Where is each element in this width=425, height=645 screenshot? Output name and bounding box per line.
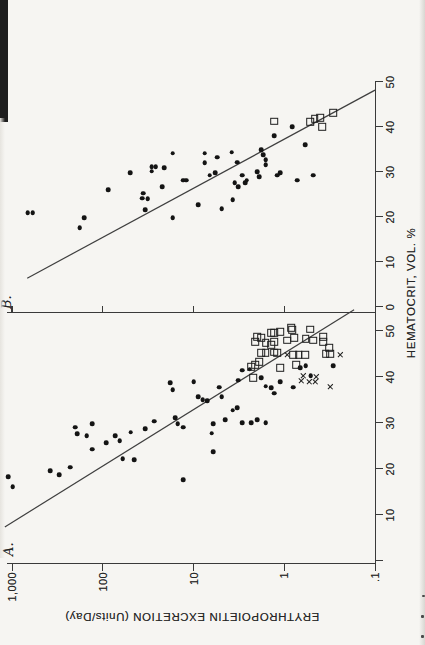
data-point-open-square-panel-a xyxy=(290,334,298,342)
panel-b-hct-tick xyxy=(375,306,383,307)
panel-b-hct-tick xyxy=(375,216,383,217)
panel-b-hct-tick-label: 10 xyxy=(384,255,396,268)
data-point-filled-circle-panel-b xyxy=(82,216,87,221)
data-point-filled-circle-panel-b xyxy=(203,161,208,166)
data-point-filled-circle-panel-b xyxy=(106,188,111,193)
panel-b-hct-tick xyxy=(375,261,383,262)
data-point-filled-circle-panel-b xyxy=(278,171,283,176)
scan-speck xyxy=(421,635,424,638)
epo-tick-label: 1 xyxy=(278,572,290,579)
data-point-filled-circle-panel-a xyxy=(272,391,277,396)
data-point-filled-circle-panel-b xyxy=(170,216,175,221)
panel-b-hct-tick-label: 30 xyxy=(384,165,396,178)
data-point-filled-circle-panel-a xyxy=(217,385,222,390)
data-point-open-square-panel-b xyxy=(329,109,337,117)
data-point-open-square-panel-a xyxy=(288,326,296,334)
data-point-filled-circle-panel-b xyxy=(230,198,235,203)
data-point-filled-circle-panel-a xyxy=(181,478,186,483)
panel-b-spine-tick xyxy=(284,307,285,314)
data-point-x-cross-panel-a xyxy=(284,352,290,358)
data-point-filled-circle-panel-a xyxy=(73,425,78,430)
data-point-filled-circle-panel-a xyxy=(175,422,180,427)
data-point-filled-circle-panel-b xyxy=(203,151,208,156)
panel-b-spine-tick xyxy=(11,307,12,314)
data-point-filled-circle-panel-a xyxy=(211,450,216,455)
data-point-filled-circle-panel-b xyxy=(30,211,35,216)
panel-b-hct-tick xyxy=(375,81,383,82)
data-point-filled-circle-panel-b xyxy=(244,178,249,183)
data-point-filled-circle-panel-a xyxy=(113,434,118,439)
data-point-filled-circle-panel-a xyxy=(68,465,73,470)
data-point-open-square-panel-a xyxy=(270,338,278,346)
data-point-filled-circle-panel-a xyxy=(303,364,308,369)
data-point-filled-circle-panel-a xyxy=(209,431,214,436)
data-point-filled-circle-panel-a xyxy=(278,380,283,385)
y-axis-title: ERYTHROPOIETIN EXCRETION (Units/Day) xyxy=(65,611,320,623)
data-point-filled-circle-panel-a xyxy=(235,406,240,411)
data-point-filled-circle-panel-a xyxy=(121,457,126,462)
scan-speck xyxy=(421,615,424,618)
data-point-filled-circle-panel-a xyxy=(57,473,62,478)
data-point-filled-circle-panel-a xyxy=(236,378,241,383)
panel-b-left-spine xyxy=(7,312,376,313)
data-point-filled-circle-panel-b xyxy=(215,155,220,160)
data-point-open-square-panel-a xyxy=(292,361,300,369)
data-point-filled-circle-panel-b xyxy=(149,169,154,174)
panel-a-hct-tick xyxy=(375,560,383,561)
data-point-filled-circle-panel-a xyxy=(48,469,53,474)
screenshot-root: A. B. ERYTHROPOIETIN EXCRETION (Units/Da… xyxy=(0,0,425,645)
scan-right-shading xyxy=(419,0,425,645)
data-point-filled-circle-panel-a xyxy=(331,364,336,369)
data-point-filled-circle-panel-b xyxy=(219,207,224,212)
panel-b-hct-tick-label: 0 xyxy=(384,304,396,311)
data-point-x-cross-panel-a xyxy=(337,352,343,358)
data-point-filled-circle-panel-a xyxy=(263,421,268,426)
data-point-filled-circle-panel-a xyxy=(84,434,89,439)
data-point-filled-circle-panel-b xyxy=(290,125,295,130)
data-point-filled-circle-panel-a xyxy=(255,417,260,422)
data-point-filled-circle-panel-b xyxy=(77,226,82,231)
epo-tick xyxy=(102,564,103,571)
data-point-open-square-panel-a xyxy=(262,349,270,357)
panel-a-hct-tick-label: 10 xyxy=(384,508,396,521)
data-point-open-square-panel-b xyxy=(319,123,327,131)
data-point-filled-circle-panel-b xyxy=(257,175,262,180)
data-point-filled-circle-panel-a xyxy=(259,376,264,381)
hematocrit-baseline-spine xyxy=(375,82,376,564)
epo-tick xyxy=(193,564,194,571)
data-point-filled-circle-panel-b xyxy=(141,191,146,196)
data-point-open-square-panel-a xyxy=(249,374,257,382)
scan-edge-artifact-bar xyxy=(0,0,8,122)
data-point-filled-circle-panel-a xyxy=(211,422,216,427)
data-point-filled-circle-panel-b xyxy=(162,166,167,171)
data-point-filled-circle-panel-b xyxy=(272,134,277,139)
panel-a-hct-tick xyxy=(375,468,383,469)
data-point-filled-circle-panel-a xyxy=(168,381,173,386)
epo-tick-label: 1,000 xyxy=(6,572,18,602)
data-point-x-cross-panel-a xyxy=(298,378,304,384)
data-point-filled-circle-panel-b xyxy=(235,160,240,165)
data-point-filled-circle-panel-b xyxy=(263,163,268,168)
data-point-filled-circle-panel-a xyxy=(219,394,224,399)
panel-a-hct-tick xyxy=(375,422,383,423)
data-point-filled-circle-panel-b xyxy=(145,197,150,202)
data-point-filled-circle-panel-a xyxy=(291,385,296,390)
panel-a-hct-tick xyxy=(375,376,383,377)
data-point-filled-circle-panel-a xyxy=(181,425,186,430)
data-point-filled-circle-panel-a xyxy=(240,368,245,373)
data-point-filled-circle-panel-b xyxy=(213,171,218,176)
data-point-filled-circle-panel-a xyxy=(152,419,157,424)
data-point-filled-circle-panel-a xyxy=(104,440,109,445)
data-point-filled-circle-panel-a xyxy=(10,485,15,490)
x-axis-title: HEMATOCRIT, VOL. % xyxy=(405,228,417,359)
data-point-filled-circle-panel-b xyxy=(160,185,165,190)
panel-b-spine-tick xyxy=(193,307,194,314)
data-point-filled-circle-panel-b xyxy=(170,151,175,156)
panel-b-spine-tick xyxy=(102,307,103,314)
epo-tick xyxy=(375,564,376,571)
epo-tick xyxy=(12,564,13,571)
data-point-filled-circle-panel-b xyxy=(261,153,266,158)
data-point-filled-circle-panel-b xyxy=(143,208,148,213)
data-point-filled-circle-panel-a xyxy=(143,427,148,432)
data-point-x-cross-panel-a xyxy=(313,379,319,385)
